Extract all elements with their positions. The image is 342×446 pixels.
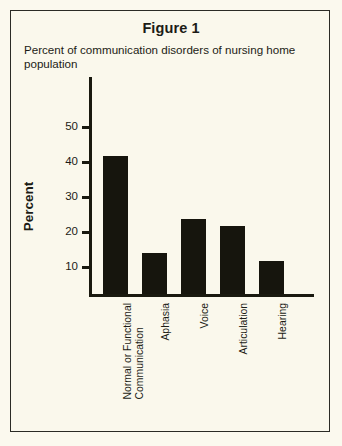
- y-tick-label-20: 20: [44, 225, 78, 237]
- x-tick-label-line1: Normal or Functional: [122, 303, 133, 399]
- bar-hearing[interactable]: [259, 261, 284, 294]
- x-tick-label-line2: Communication: [133, 303, 145, 399]
- y-axis-line: [89, 77, 92, 297]
- y-tick-mark-30: [82, 196, 92, 199]
- bar-voice[interactable]: [181, 219, 206, 294]
- figure-border: Figure 1 Percent of communication disord…: [10, 10, 330, 432]
- y-tick-label-50: 50: [44, 120, 78, 132]
- y-axis-title: Percent: [21, 167, 36, 247]
- figure-root: Figure 1 Percent of communication disord…: [0, 0, 342, 446]
- y-tick-mark-50: [82, 126, 92, 129]
- y-tick-label-40: 40: [44, 155, 78, 167]
- bar-chart-plot: Percent 10 20 30 40 50 Normal or Functio…: [11, 11, 331, 433]
- bar-articulation[interactable]: [220, 226, 245, 294]
- x-tick-label-normal-or-functional-communication: Normal or Functional Communication: [122, 303, 145, 399]
- y-tick-label-30: 30: [44, 190, 78, 202]
- y-tick-mark-10: [82, 266, 92, 269]
- x-tick-label-voice: Voice: [199, 303, 211, 328]
- y-tick-label-10: 10: [44, 260, 78, 272]
- x-tick-label-aphasia: Aphasia: [160, 303, 172, 341]
- bar-aphasia[interactable]: [142, 253, 167, 294]
- y-tick-mark-40: [82, 161, 92, 164]
- y-tick-mark-20: [82, 231, 92, 234]
- bar-normal-or-functional-communication[interactable]: [103, 156, 128, 294]
- x-axis-line: [89, 294, 314, 297]
- x-tick-label-hearing: Hearing: [277, 303, 289, 339]
- x-tick-label-articulation: Articulation: [238, 303, 250, 354]
